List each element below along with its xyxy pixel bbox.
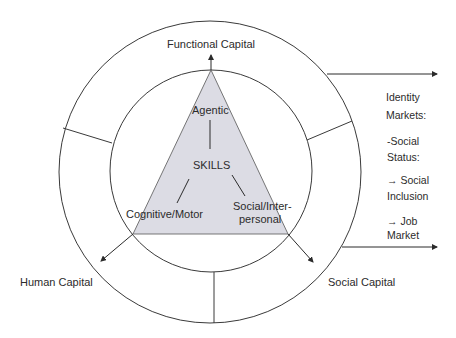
label-human-capital: Human Capital: [20, 276, 93, 289]
identity-item-social-status-1: -Social: [387, 135, 419, 148]
arrow-human: [101, 234, 133, 261]
ring-divider-left: [63, 128, 112, 143]
label-cognitive-motor: Cognitive/Motor: [126, 208, 203, 221]
label-social-capital: Social Capital: [328, 276, 395, 289]
identity-item-job-market-2: Market: [387, 229, 419, 242]
arrow-social: [288, 234, 313, 262]
identity-item-job-market-1: → Job: [387, 215, 417, 228]
label-agentic: Agentic: [192, 104, 229, 117]
label-functional-capital: Functional Capital: [167, 38, 255, 51]
identity-item-social-inclusion-2: Inclusion: [387, 190, 428, 203]
label-social-interpersonal-1: Social/Inter-: [233, 200, 292, 213]
ring-divider-right: [307, 121, 352, 140]
identity-markets-heading-1: Identity: [386, 91, 420, 104]
identity-item-social-status-2: Status:: [387, 151, 420, 164]
label-social-interpersonal-2: personal: [239, 213, 281, 226]
identity-markets-heading-2: Markets:: [386, 109, 426, 122]
identity-item-social-inclusion-1: → Social: [387, 174, 429, 187]
label-skills: SKILLS: [193, 159, 230, 172]
